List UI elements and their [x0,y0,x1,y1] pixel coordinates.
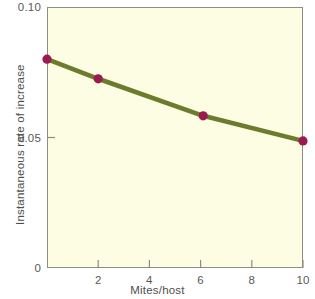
x-axis-title: Mites/host [0,284,315,296]
y-tick-label: 0.10 [18,1,41,13]
y-axis-title: Instantaneous rate of increase [14,64,26,225]
plot-area [47,7,303,268]
chart-figure: 00.050.10 246810 Mites/host Instantaneou… [0,0,315,299]
y-tick-label: 0 [34,262,41,274]
